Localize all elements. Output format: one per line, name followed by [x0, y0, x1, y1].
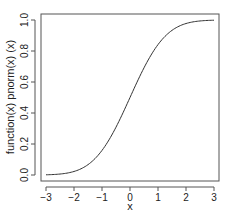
y-tick-label: 0.2 [19, 137, 30, 151]
y-tick-label: 0.4 [19, 106, 30, 120]
x-tick-label: 3 [211, 192, 217, 203]
x-tick-label: 2 [183, 192, 189, 203]
y-tick-label: 0.0 [19, 168, 30, 182]
y-tick-label: 0.6 [19, 75, 30, 89]
x-tick-label: −2 [68, 192, 80, 203]
y-axis-label: function(x) pnorm(x) (x) [4, 40, 16, 154]
x-tick-label: −3 [40, 192, 52, 203]
pnorm-chart: −3−2−10123 0.00.20.40.60.81.0 x function… [0, 0, 234, 215]
y-tick-label: 0.8 [19, 44, 30, 58]
y-axis: 0.00.20.40.60.81.0 [19, 13, 35, 182]
x-tick-label: −1 [96, 192, 108, 203]
pnorm-curve [46, 20, 214, 175]
x-tick-label: 1 [155, 192, 161, 203]
y-tick-label: 1.0 [19, 13, 30, 27]
x-axis-label: x [127, 200, 133, 212]
